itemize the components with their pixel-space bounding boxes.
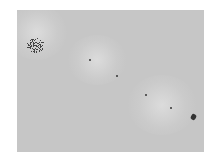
halo [127,75,197,135]
particle [37,49,38,50]
particle [28,45,29,46]
halo [67,35,127,85]
particle [36,42,37,43]
particle [34,40,35,41]
dot-2 [116,75,118,77]
particle [37,38,38,39]
particle [30,44,31,45]
particle [32,41,33,42]
particle [41,46,42,47]
particle [42,45,43,46]
particle [31,51,32,52]
particle [33,44,34,45]
particle [30,47,31,48]
dot-3 [145,94,147,96]
particle [27,43,28,44]
halo [17,10,67,60]
particle [28,47,29,48]
particle [40,40,41,41]
particle [36,51,37,52]
particle [39,51,40,52]
particle [42,42,43,43]
particle [33,46,34,47]
particle [39,42,40,43]
particle [37,46,38,47]
dot-1 [89,59,91,61]
particle [34,49,35,50]
particle [41,50,42,51]
particle [41,42,42,43]
particle [30,40,31,41]
particle [27,47,28,48]
particle [35,39,36,40]
dot-4 [170,107,172,109]
particle [37,43,38,44]
micrograph [17,10,204,152]
particle [42,48,43,49]
